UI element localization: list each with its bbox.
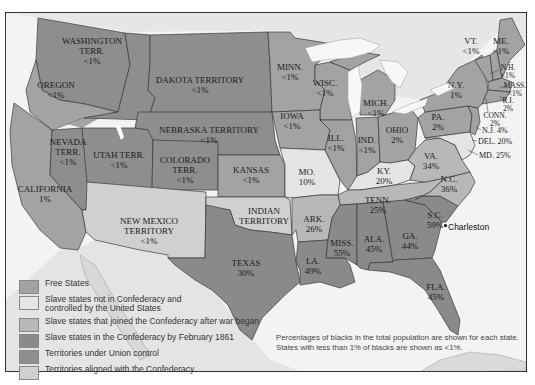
legend-item-free-states: Free States <box>19 279 299 295</box>
label-california: CALIFORNIA 1% <box>18 184 73 204</box>
legend-swatch-free-states <box>19 280 39 294</box>
label-washington: WASHINGTON TERR. <1% <box>62 36 122 66</box>
label-new-jersey: N.J. 4% <box>482 126 508 136</box>
label-mississippi: MISS. 55% <box>330 238 353 258</box>
label-kansas: KANSAS <1% <box>233 165 269 185</box>
label-nevada: NEVADA TERR. <1% <box>50 137 87 167</box>
legend-item-slave-not-confederacy: Slave states not in Confederacy and cont… <box>19 295 299 317</box>
label-louisiana: LA. 49% <box>305 256 322 276</box>
cuba-land <box>420 352 526 372</box>
label-north-carolina: N.C. 36% <box>440 174 457 194</box>
label-pennsylvania: PA. 2% <box>432 112 445 132</box>
label-oregon: OREGON <1% <box>37 80 75 100</box>
label-colorado: COLORADO TERR. <1% <box>160 155 210 185</box>
legend-item-territories-confederacy: Territories aligned with the Confederacy <box>19 365 299 381</box>
label-virginia: VA. 34% <box>423 151 440 171</box>
label-nebraska: NEBRASKA TERRITORY <1% <box>159 125 259 145</box>
label-vermont: VT. <1% <box>462 36 479 56</box>
label-new-mexico: NEW MEXICO TERRITORY <1% <box>120 216 178 246</box>
legend-item-slave-confederacy-feb1861: Slave states in the Confederacy by Febru… <box>19 333 299 349</box>
label-illinois: ILL. <1% <box>327 133 344 153</box>
legend-swatch-slave-confederacy-feb1861 <box>19 334 39 348</box>
legend-swatch-slave-not-confederacy <box>19 296 39 310</box>
label-new-hampshire: N.H. <1% <box>501 64 516 80</box>
legend-swatch-territories-confederacy <box>19 366 39 380</box>
label-texas: TEXAS 30% <box>232 258 261 278</box>
legend-swatch-territories-union <box>19 350 39 364</box>
map-legend: Free States Slave states not in Confeder… <box>19 279 299 381</box>
map-note: Percentages of blacks in the total popul… <box>276 333 519 353</box>
label-georgia: GA. 44% <box>402 231 419 251</box>
label-dakota: DAKOTA TERRITORY <1% <box>156 75 245 95</box>
label-ohio: OHIO 2% <box>386 125 409 145</box>
label-iowa: IOWA <1% <box>280 111 304 131</box>
label-charleston: Charleston <box>448 222 489 232</box>
legend-item-territories-union: Territories under Union control <box>19 349 299 365</box>
label-indian-territory: INDIAN TERRITORY <box>239 206 289 226</box>
charleston-city-dot <box>444 224 447 227</box>
label-kentucky: KY. 20% <box>376 166 393 186</box>
label-florida: FLA. 45% <box>426 282 445 302</box>
label-maryland: MD. 25% <box>479 151 511 161</box>
label-south-carolina: S.C. 59% <box>427 210 444 230</box>
label-new-york: N.Y. 1% <box>448 80 464 100</box>
legend-swatch-slave-joined-after <box>19 318 39 332</box>
label-utah: UTAH TERR. <1% <box>93 150 145 170</box>
label-tennessee: TENN. 25% <box>365 195 391 215</box>
label-arkansas: ARK. 26% <box>303 214 324 234</box>
legend-item-slave-joined-after: Slave states that joined the Confederacy… <box>19 317 299 333</box>
shape-florida <box>368 258 460 335</box>
label-minnesota: MINN. <1% <box>277 62 303 82</box>
label-michigan: MICH. <1% <box>363 98 389 118</box>
label-missouri: MO. 10% <box>299 167 316 187</box>
lake-erie <box>392 98 428 114</box>
label-indiana: IND. <1% <box>358 135 376 155</box>
label-alabama: ALA. 45% <box>364 234 385 254</box>
label-wisconsin: WISC. <1% <box>313 78 338 98</box>
label-maine: ME. <1% <box>492 36 509 56</box>
label-delaware: DEL. 20% <box>478 137 512 147</box>
